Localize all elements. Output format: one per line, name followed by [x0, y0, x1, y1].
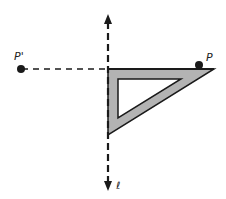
arrow-down-icon [104, 181, 112, 191]
label-p-prime: P' [14, 50, 24, 63]
triangle-shape [108, 69, 214, 135]
point-p [195, 61, 203, 69]
reflection-diagram: P' P ℓ [0, 0, 226, 199]
point-p-prime [17, 65, 25, 73]
label-line-l: ℓ [116, 180, 120, 191]
arrow-up-icon [104, 14, 112, 24]
label-p: P [206, 51, 213, 64]
